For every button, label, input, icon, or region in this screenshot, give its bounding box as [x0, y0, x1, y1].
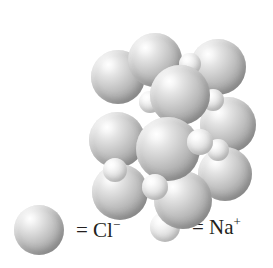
nacl-crystal-figure: = Cl− = Na+: [0, 0, 273, 268]
chloride-ion-sphere: [150, 65, 210, 125]
legend-item-chloride-label: = Cl−: [76, 220, 120, 241]
sodium-ion-sphere: [187, 129, 213, 155]
sodium-ion-sphere: [142, 174, 168, 200]
legend-sodium-symbol: Na: [209, 215, 234, 239]
legend-chloride-equals: =: [76, 218, 88, 242]
legend-sodium-charge: +: [234, 214, 241, 229]
sodium-ion-sphere: [103, 158, 127, 182]
legend-chloride-symbol: Cl: [93, 218, 113, 242]
chloride-sphere-icon: [14, 205, 64, 255]
crystal-lattice-diagram: [45, 22, 215, 192]
